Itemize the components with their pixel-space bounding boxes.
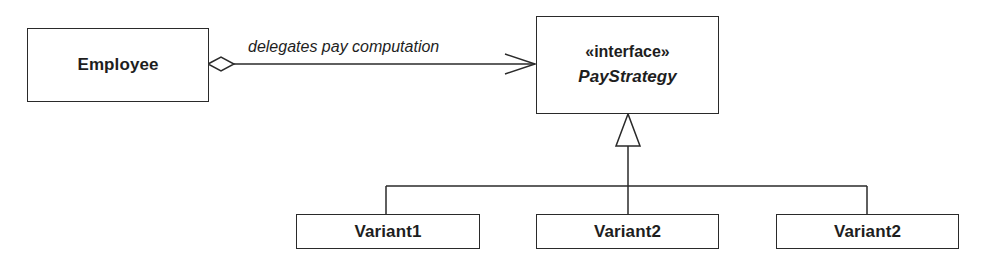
variant3-class-name: Variant2 [834,222,901,242]
interface-stereotype: «interface» [585,43,670,61]
variant3-class-box[interactable]: Variant2 [776,214,959,249]
employee-class-box[interactable]: Employee [27,28,209,102]
aggregation-diamond-icon [208,57,234,71]
inheritance-triangle-icon [616,114,640,146]
variant1-class-name: Variant1 [355,222,422,242]
variant2-class-name: Variant2 [594,222,661,242]
variant1-class-box[interactable]: Variant1 [296,214,480,249]
pay-strategy-name: PayStrategy [578,67,676,87]
pay-strategy-interface-box[interactable]: «interface» PayStrategy [536,16,719,114]
variant2-class-box[interactable]: Variant2 [536,214,719,249]
employee-class-name: Employee [77,55,158,75]
association-label: delegates pay computation [248,38,439,56]
